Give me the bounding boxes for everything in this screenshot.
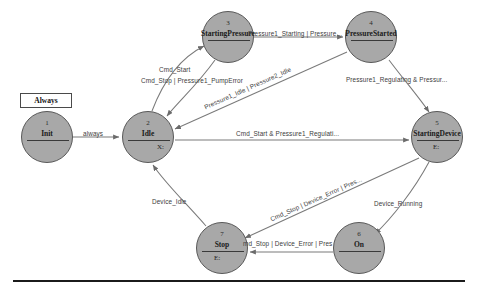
- state-node-startingdevice-divider: [417, 140, 459, 141]
- state-node-idle[interactable]: 2 Idle X:: [122, 111, 174, 163]
- edge-label-cmd-start-regulating: Cmd_Start & Pressure1_Regulati...: [236, 130, 339, 137]
- edge-label-cmd-stop-device-error-lower: md_Stop | Device_Error | Pres: [243, 240, 332, 247]
- state-node-startingdevice[interactable]: 5 StartingDevice E:: [411, 111, 463, 163]
- edge-label-device-idle: Device_Idle: [152, 198, 187, 205]
- edge-label-cmd-stop-pumperror: Cmd_Stop | Pressure1_PumpError: [141, 77, 243, 84]
- state-node-stop-sub: E:: [214, 254, 220, 262]
- state-node-init[interactable]: 1 Init: [21, 111, 73, 163]
- state-node-pressurestarted[interactable]: 4 PressureStarted: [345, 11, 397, 63]
- edge-startingdevice-on: [375, 162, 429, 234]
- always-box-label: Always: [34, 96, 57, 105]
- state-node-pressurestarted-divider: [351, 40, 393, 41]
- state-node-pressurestarted-id: 4: [346, 19, 396, 27]
- state-node-startingdevice-name: StartingDevice: [398, 129, 476, 138]
- edge-startingdevice-stop: [245, 158, 419, 238]
- state-node-idle-name: Idle: [109, 129, 187, 138]
- edge-label-pressure1-starting: Pressure1_Starting | Pressure...: [248, 30, 342, 37]
- edge-label-device-running: Device_Running: [374, 200, 422, 207]
- state-node-idle-id: 2: [123, 119, 173, 127]
- state-node-idle-divider: [128, 140, 170, 141]
- edge-pressurestarted-startingdevice: [389, 60, 429, 112]
- state-node-init-name: Init: [8, 129, 86, 138]
- edge-pressurestarted-idle: [175, 52, 347, 129]
- always-box: Always: [20, 93, 72, 108]
- state-node-pressurestarted-name: PressureStarted: [332, 29, 410, 38]
- edge-label-always: always: [83, 130, 103, 137]
- state-node-on[interactable]: 6 On: [333, 222, 385, 274]
- state-node-startingpressure[interactable]: 3 StartingPressure: [202, 11, 254, 63]
- edge-stop-idle: [153, 165, 206, 226]
- state-node-init-id: 1: [22, 119, 72, 127]
- state-node-startingdevice-sub: E:: [433, 143, 439, 151]
- state-node-idle-sub: X:: [157, 143, 164, 151]
- state-node-stop-id: 7: [197, 230, 247, 238]
- state-node-init-divider: [27, 140, 69, 141]
- state-node-stop[interactable]: 7 Stop E:: [196, 222, 248, 274]
- state-node-on-id: 6: [334, 230, 384, 238]
- edge-label-cmd-start: Cmd_Start: [159, 66, 190, 73]
- bottom-divider: [13, 280, 465, 282]
- state-machine-diagram: Always 1 Init 2 Idle X: 3 StartingPressu…: [0, 0, 478, 296]
- state-node-startingdevice-id: 5: [412, 119, 462, 127]
- state-node-on-divider: [339, 251, 381, 252]
- state-node-startingpressure-id: 3: [203, 19, 253, 27]
- state-node-stop-divider: [202, 251, 244, 252]
- edge-label-pressure1-regulating: Pressure1_Regulating & Pressur...: [346, 76, 447, 83]
- state-node-startingpressure-divider: [208, 40, 250, 41]
